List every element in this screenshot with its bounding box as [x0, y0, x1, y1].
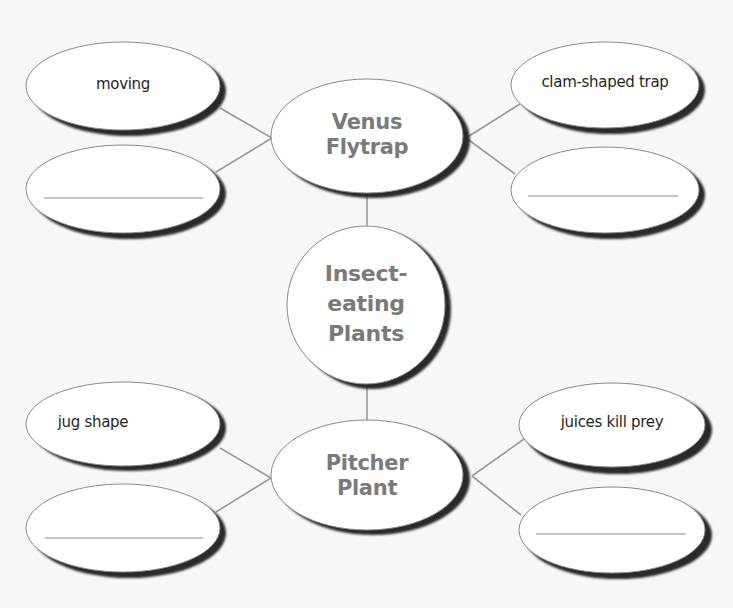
- concept-map: moving clam-shaped trap Venus Flytrap In…: [0, 0, 733, 608]
- detail-label: moving: [96, 75, 150, 93]
- blank-answer-pitcher-left[interactable]: [45, 508, 205, 538]
- detail-label: juices kill prey: [561, 413, 664, 431]
- connector-venus-blank-right: [466, 138, 515, 174]
- detail-clam-shaped-trap: clam-shaped trap: [511, 62, 699, 102]
- branch-venus-flytrap: Venus Flytrap: [271, 100, 463, 170]
- connector-venus-clam: [466, 104, 520, 138]
- blank-answer-pitcher-right[interactable]: [536, 504, 688, 534]
- center-label: Insect- eating Plants: [325, 259, 407, 349]
- center-topic: Insect- eating Plants: [287, 254, 445, 354]
- connector-pitcher-jug: [220, 448, 271, 478]
- blank-answer-venus-left[interactable]: [44, 168, 204, 198]
- detail-label: jug shape: [58, 413, 129, 431]
- detail-jug-shape: jug shape: [26, 402, 220, 442]
- branch-label: Venus Flytrap: [326, 110, 409, 160]
- detail-label: clam-shaped trap: [541, 73, 668, 91]
- blank-answer-venus-right[interactable]: [528, 166, 680, 196]
- connector-venus-blank-left: [216, 138, 272, 172]
- connector-venus-moving: [220, 108, 272, 138]
- connector-pitcher-blank-right: [472, 476, 521, 515]
- connector-pitcher-juices: [472, 439, 524, 476]
- branch-label: Pitcher Plant: [326, 451, 409, 501]
- detail-moving: moving: [26, 64, 220, 104]
- branch-pitcher-plant: Pitcher Plant: [271, 441, 463, 511]
- detail-juices-kill-prey: juices kill prey: [519, 402, 705, 442]
- connector-pitcher-blank-left: [216, 478, 271, 512]
